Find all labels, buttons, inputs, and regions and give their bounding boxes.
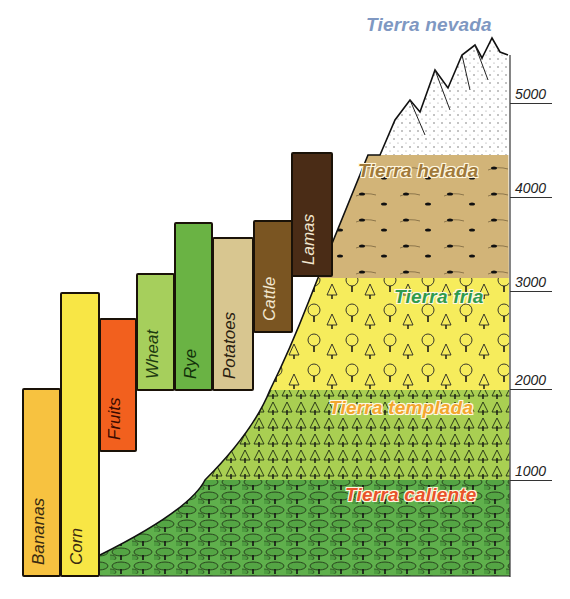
tick-mark [510,197,552,198]
zone-label-nevada: Tierra nevada [366,14,492,36]
zone-label-helada: Tierra helada [358,160,479,182]
tick-label: 5000 [515,86,546,102]
crop-label: Rye [181,349,201,379]
zone-label-templada: Tierra templada [329,397,473,419]
crop-bar-wheat: Wheat [136,273,175,391]
crop-label: Lamas [299,214,319,265]
crop-bar-bananas: Bananas [22,388,61,577]
crop-label: Potatoes [220,312,240,379]
crop-bar-fruits: Fruits [99,318,137,452]
crop-bar-potatoes: Potatoes [212,237,254,391]
tick-mark [510,291,552,292]
tick-label: 3000 [515,274,546,290]
crop-bar-rye: Rye [174,222,213,391]
crop-label: Fruits [105,398,125,441]
tick-mark [510,103,552,104]
tick-label: 1000 [515,463,546,479]
tick-mark [510,389,552,390]
tick-mark [510,480,552,481]
crop-label: Bananas [29,498,49,565]
crop-bar-cattle: Cattle [253,220,293,333]
altitudinal-zones-diagram: 50004000300020001000 Tierra nevadaTierra… [0,0,570,599]
crop-label: Wheat [143,330,163,379]
crop-label: Cattle [260,277,280,321]
crop-label: Corn [67,528,87,565]
zone-label-caliente: Tierra caliente [345,484,477,506]
tick-label: 2000 [515,372,546,388]
crop-bar-lamas: Lamas [291,152,333,277]
crop-bar-corn: Corn [60,292,100,577]
tick-label: 4000 [515,180,546,196]
zone-label-fria: Tierra fria [394,286,484,308]
